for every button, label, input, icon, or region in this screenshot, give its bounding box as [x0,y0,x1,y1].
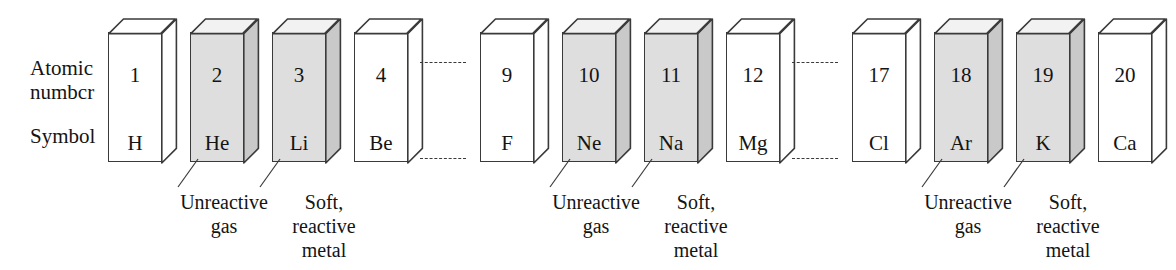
annotation-caption: Soft, reactive metal [631,190,761,262]
dashed-line-lower [792,158,838,159]
box-side-face [615,18,631,162]
box-side-face [161,18,177,162]
box-side-face [987,18,1003,162]
box-side-face [243,18,259,162]
dashed-line-lower [420,158,466,159]
box-top-face [644,18,712,34]
element-box: 3Li [272,18,340,162]
dashed-line-upper [792,62,838,63]
atomic-number-value: 12 [726,64,780,86]
element-box: 1H [108,18,176,162]
element-symbol-value: Na [644,132,698,154]
box-top-face [1016,18,1084,34]
element-box: 11Na [644,18,712,162]
element-box: 9F [480,18,548,162]
box-side-face [325,18,341,162]
element-symbol-value: H [108,132,162,154]
leader-line [174,158,200,188]
element-symbol-value: Cl [852,132,906,154]
atomic-number-value: 17 [852,64,906,86]
box-top-face [934,18,1002,34]
element-symbol-value: Mg [726,132,780,154]
element-box: 19K [1016,18,1084,162]
element-box: 18Ar [934,18,1002,162]
box-top-face [726,18,794,34]
box-side-face [697,18,713,162]
element-periodicity-diagram: Atomic numbcr Symbol 1H2He3Li4Be9F10Ne11… [0,0,1176,270]
box-top-face [272,18,340,34]
row-label-atomic-number: Atomic numbcr [30,56,94,104]
element-box: 10Ne [562,18,630,162]
atomic-number-value: 10 [562,64,616,86]
annotation-caption: Soft, reactive metal [259,190,389,262]
element-symbol-value: Be [354,132,408,154]
element-box: 12Mg [726,18,794,162]
element-symbol-value: Ca [1098,132,1152,154]
box-top-face [480,18,548,34]
box-side-face [905,18,921,162]
box-side-face [1069,18,1085,162]
element-symbol-value: Ne [562,132,616,154]
element-symbol-value: He [190,132,244,154]
element-symbol-value: Ar [934,132,988,154]
leader-line [918,158,944,188]
dashed-line-upper [420,62,466,63]
box-side-face [533,18,549,162]
leader-line [628,158,654,188]
atomic-number-value: 4 [354,64,408,86]
element-box: 20Ca [1098,18,1166,162]
element-symbol-value: K [1016,132,1070,154]
element-box: 4Be [354,18,422,162]
dashed-connector [420,62,466,158]
box-side-face [1151,18,1167,162]
box-top-face [1098,18,1166,34]
box-top-face [108,18,176,34]
row-label-symbol: Symbol [30,124,95,148]
dashed-connector [792,62,838,158]
element-box: 17Cl [852,18,920,162]
atomic-number-value: 11 [644,64,698,86]
atomic-number-value: 3 [272,64,326,86]
box-top-face [562,18,630,34]
atomic-number-value: 20 [1098,64,1152,86]
box-top-face [354,18,422,34]
leader-line [256,158,282,188]
leader-line [1000,158,1026,188]
atomic-number-value: 9 [480,64,534,86]
box-top-face [190,18,258,34]
atomic-number-value: 2 [190,64,244,86]
leader-line [546,158,572,188]
annotation-caption: Soft, reactive metal [1003,190,1133,262]
box-top-face [852,18,920,34]
atomic-number-value: 19 [1016,64,1070,86]
element-box: 2He [190,18,258,162]
element-symbol-value: F [480,132,534,154]
atomic-number-value: 1 [108,64,162,86]
atomic-number-value: 18 [934,64,988,86]
element-symbol-value: Li [272,132,326,154]
